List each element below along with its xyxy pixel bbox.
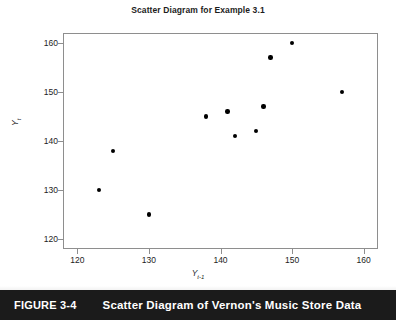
plot-area <box>63 33 378 249</box>
y-tick-label: 150 <box>32 87 58 97</box>
x-tick-mark <box>364 249 365 254</box>
scatter-figure: Scatter Diagram for Example 3.1 Yt 12013… <box>0 0 396 320</box>
y-tick-label: 120 <box>32 234 58 244</box>
x-tick-label: 150 <box>272 255 312 265</box>
plot-frame <box>63 33 378 249</box>
data-point <box>268 55 272 59</box>
x-axis-tick-labels: 120130140150160 <box>63 255 378 269</box>
y-axis-tick-labels: 120130140150160 <box>30 33 58 249</box>
figure-caption-bar: FIGURE 3-4 Scatter Diagram of Vernon's M… <box>0 290 396 320</box>
x-tick-label: 160 <box>344 255 384 265</box>
y-tick-mark <box>58 190 63 191</box>
x-tick-mark <box>292 249 293 254</box>
y-axis-title: Yt <box>10 119 22 126</box>
figure-number-label: FIGURE 3-4 <box>14 299 77 311</box>
x-tick-mark <box>77 249 78 254</box>
data-point <box>204 114 208 118</box>
data-point <box>261 104 265 108</box>
y-axis-title-sub: t <box>16 119 22 121</box>
x-axis-title-sub: t-1 <box>197 274 204 280</box>
x-tick-mark <box>221 249 222 254</box>
y-tick-mark <box>58 43 63 44</box>
data-point <box>147 212 151 216</box>
chart-title: Scatter Diagram for Example 3.1 <box>0 5 396 15</box>
y-axis-title-main: Y <box>10 120 20 126</box>
x-axis-title: Yt-1 <box>0 268 396 280</box>
x-tick-mark <box>149 249 150 254</box>
x-tick-label: 130 <box>129 255 169 265</box>
y-tick-label: 160 <box>32 38 58 48</box>
y-tick-mark <box>58 239 63 240</box>
caption-accent <box>0 290 6 320</box>
y-tick-label: 130 <box>32 185 58 195</box>
figure-caption-text: Scatter Diagram of Vernon's Music Store … <box>103 299 362 311</box>
y-tick-mark <box>58 141 63 142</box>
x-tick-label: 140 <box>201 255 241 265</box>
y-tick-label: 140 <box>32 136 58 146</box>
x-tick-label: 120 <box>57 255 97 265</box>
data-point <box>225 109 229 113</box>
y-tick-mark <box>58 92 63 93</box>
